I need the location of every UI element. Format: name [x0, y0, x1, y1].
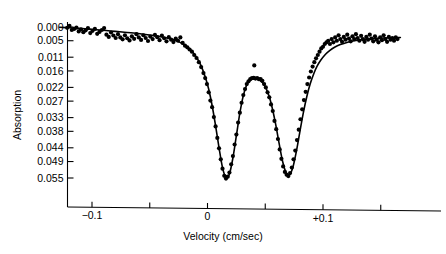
data-point	[267, 95, 271, 99]
data-point	[157, 38, 161, 42]
data-point	[227, 170, 231, 174]
data-point	[93, 27, 97, 31]
data-point	[291, 157, 295, 161]
data-point	[236, 120, 240, 124]
data-point	[132, 37, 136, 41]
y-tick-label-4: 0.022	[37, 81, 63, 93]
data-point	[226, 175, 230, 179]
y-tick-label-9: 0.049	[37, 155, 63, 167]
data-point	[121, 37, 125, 41]
data-point	[395, 37, 399, 41]
data-point	[252, 63, 256, 67]
data-point	[271, 109, 275, 113]
data-point	[215, 136, 219, 140]
data-point	[139, 38, 143, 42]
data-point	[231, 154, 235, 158]
data-point	[102, 26, 106, 30]
data-point	[194, 56, 198, 60]
data-point	[86, 26, 90, 30]
data-point	[238, 111, 242, 115]
data-point	[368, 33, 372, 37]
y-tick-label-3: 0.016	[37, 65, 63, 77]
data-point	[212, 115, 216, 119]
data-point	[345, 33, 349, 37]
data-point	[304, 90, 308, 94]
data-point	[199, 65, 203, 69]
data-point	[295, 138, 299, 142]
data-point	[265, 90, 269, 94]
data-point	[290, 165, 294, 169]
data-point	[281, 164, 285, 168]
data-point	[239, 101, 243, 105]
data-point	[307, 75, 311, 79]
data-point	[274, 127, 278, 131]
y-tick-label-1: 0.005	[37, 34, 63, 46]
data-point	[201, 71, 205, 75]
data-point	[264, 85, 268, 89]
data-point	[114, 36, 118, 40]
data-point	[178, 35, 182, 39]
data-point	[217, 146, 221, 150]
data-point	[340, 40, 344, 44]
data-point	[312, 60, 316, 64]
data-point	[278, 147, 282, 151]
data-point	[151, 37, 155, 41]
y-tick-label-5: 0.027	[37, 95, 63, 107]
data-point	[293, 148, 297, 152]
data-point	[376, 40, 380, 44]
data-point	[276, 137, 280, 141]
data-point	[385, 40, 389, 44]
y-tick-label-7: 0.038	[37, 125, 63, 137]
data-point	[67, 24, 71, 28]
data-point	[197, 60, 201, 64]
data-point	[298, 117, 302, 121]
data-point	[349, 39, 353, 43]
data-point	[279, 157, 283, 161]
data-point	[74, 25, 78, 29]
data-point	[107, 35, 111, 39]
x-axis-title: Velocity (cm/sec)	[183, 230, 262, 242]
data-point	[229, 162, 233, 166]
y-tick-label-2: 0.011	[38, 51, 64, 63]
data-point	[354, 32, 358, 36]
data-point	[362, 40, 366, 44]
y-tick-label-10: 0.055	[37, 172, 63, 184]
data-point	[171, 40, 175, 44]
x-tick-label-2: 0	[205, 210, 211, 222]
x-tick-label-4: +0.1	[313, 212, 334, 224]
data-point	[127, 38, 131, 42]
data-point	[241, 93, 245, 97]
data-point	[336, 33, 340, 37]
x-tick-label-0: −0.1	[82, 209, 103, 221]
data-point	[213, 124, 217, 128]
data-point	[203, 76, 207, 80]
y-tick-label-8: 0.044	[37, 141, 63, 153]
data-point	[311, 64, 315, 68]
data-point	[269, 102, 273, 106]
data-point	[302, 98, 306, 102]
data-point	[297, 128, 301, 132]
data-point	[305, 82, 309, 86]
data-point	[234, 133, 238, 137]
data-point	[210, 105, 214, 109]
data-point	[300, 107, 304, 111]
data-point	[208, 98, 212, 102]
data-point	[272, 119, 276, 123]
data-point	[288, 171, 292, 175]
data-point	[220, 167, 224, 171]
data-point	[164, 39, 168, 43]
data-point	[243, 87, 247, 91]
y-axis-tick-labels: 0.0000.0050.0110.0160.0220.0270.0330.038…	[37, 21, 63, 184]
mossbauer-absorption-spectrum-figure: 0.0000.0050.0110.0160.0220.0270.0330.038…	[0, 0, 446, 254]
data-point	[219, 157, 223, 161]
y-tick-label-6: 0.033	[37, 111, 63, 123]
data-point	[207, 90, 211, 94]
data-point	[205, 82, 209, 86]
data-point	[146, 39, 150, 43]
data-point	[309, 69, 313, 73]
y-axis-title: Absorption	[11, 90, 23, 140]
data-point	[233, 142, 237, 146]
data-point	[382, 33, 386, 37]
plot-canvas: 0.0000.0050.0110.0160.0220.0270.0330.038…	[0, 0, 446, 254]
